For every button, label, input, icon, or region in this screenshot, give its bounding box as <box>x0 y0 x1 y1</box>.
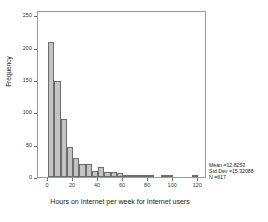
y-axis-title: Frequency <box>5 42 12 102</box>
x-axis-tick <box>197 178 198 181</box>
y-axis-tick-label: 200 <box>23 46 32 52</box>
y-axis-tick-label: 250 <box>23 13 32 19</box>
bars-layer <box>38 12 205 177</box>
plot-area <box>37 11 206 178</box>
x-axis-title: Hours on Internet per week for Internet … <box>20 198 220 205</box>
x-axis-tick-label: 20 <box>69 182 75 188</box>
stat-n: N =617 <box>209 174 254 180</box>
y-axis-tick-label: 50 <box>26 143 32 149</box>
x-axis-tick-label: 120 <box>193 182 202 188</box>
x-axis-tick-label: 60 <box>119 182 125 188</box>
histogram-bar <box>192 175 198 177</box>
x-axis-tick-label: 80 <box>144 182 150 188</box>
x-axis-tick-label: 0 <box>45 182 48 188</box>
y-axis-tick-label: 0 <box>29 175 32 181</box>
x-axis-tick <box>172 178 173 181</box>
histogram-bar <box>167 175 173 177</box>
x-axis-tick <box>97 178 98 181</box>
x-axis: 020406080100120 <box>37 178 206 198</box>
x-axis-tick-label: 100 <box>168 182 177 188</box>
x-axis-tick <box>72 178 73 181</box>
stats-annotation: Mean =12.8253 Std Dev =15.32088 N =617 <box>209 162 254 181</box>
x-axis-tick-label: 40 <box>94 182 100 188</box>
histogram-bar <box>148 175 154 177</box>
histogram-chart: 050100150200250 Frequency 02040608010012… <box>0 0 268 222</box>
x-axis-tick <box>47 178 48 181</box>
x-axis-tick <box>147 178 148 181</box>
y-axis-tick-label: 150 <box>23 78 32 84</box>
y-axis-tick-label: 100 <box>23 111 32 117</box>
x-axis-tick <box>122 178 123 181</box>
